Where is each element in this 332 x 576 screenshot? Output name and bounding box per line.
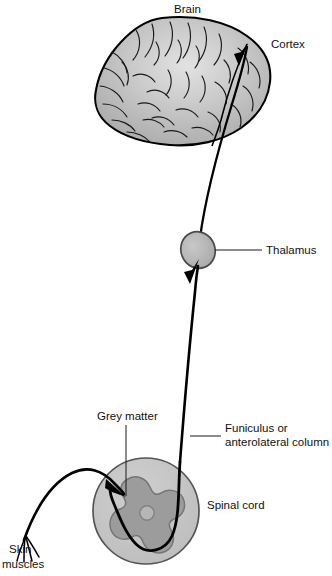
label-thalamus: Thalamus: [266, 244, 317, 256]
label-skin: Skin: [9, 543, 31, 555]
label-grey-matter: Grey matter: [97, 410, 158, 422]
label-funiculus-line2: anterolateral column: [225, 436, 329, 448]
label-funiculus-line1: Funiculus or: [225, 422, 288, 434]
brain-group: [95, 17, 270, 146]
spinal-cord-group: [93, 458, 199, 564]
central-canal: [140, 506, 154, 520]
spinothalamic-tract: [180, 259, 199, 462]
label-cortex: Cortex: [271, 38, 305, 50]
label-spinal-cord: Spinal cord: [207, 499, 265, 511]
diagram-canvas: Brain Cortex Thalamus Funiculus or anter…: [0, 0, 332, 576]
label-muscles: muscles: [2, 558, 44, 570]
label-brain: Brain: [174, 3, 201, 15]
anatomical-diagram: Brain Cortex Thalamus Funiculus or anter…: [0, 0, 332, 576]
